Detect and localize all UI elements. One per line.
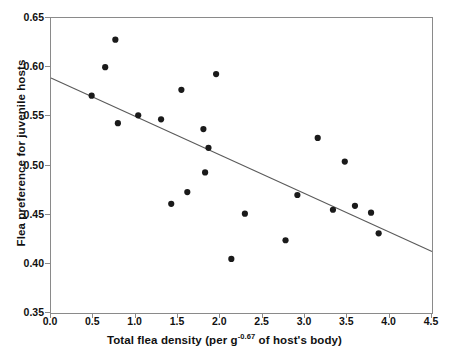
data-point (135, 112, 141, 118)
data-point (315, 135, 321, 141)
data-point (115, 120, 121, 126)
data-point (242, 211, 248, 217)
x-axis-tick-label: 4.5 (411, 315, 449, 327)
scatter-plot-figure: Flea preference for juvenile hosts Total… (0, 0, 449, 359)
data-point (200, 126, 206, 132)
y-axis-tick-label: 0.45 (8, 208, 44, 220)
y-axis-tick-label: 0.50 (8, 159, 44, 171)
y-axis-tick-label: 0.60 (8, 60, 44, 72)
data-point (89, 93, 95, 99)
data-point (178, 87, 184, 93)
regression-trendline (51, 78, 432, 252)
data-point (205, 145, 211, 151)
x-axis-title-prefix: Total flea density (per g (107, 334, 238, 346)
data-point (202, 169, 208, 175)
x-axis-title-suffix: of host's body) (255, 334, 342, 346)
y-axis-tick-label: 0.65 (8, 11, 44, 23)
data-point (184, 189, 190, 195)
plot-canvas (51, 18, 432, 313)
data-point (368, 210, 374, 216)
data-point (330, 207, 336, 213)
data-point (294, 192, 300, 198)
x-axis-title-exponent: -0.67 (238, 332, 256, 341)
data-point (376, 230, 382, 236)
y-axis-tick-label: 0.40 (8, 257, 44, 269)
y-axis-title: Flea preference for juvenile hosts (15, 13, 27, 293)
data-point (342, 158, 348, 164)
plot-area (50, 17, 433, 314)
data-point (352, 203, 358, 209)
data-point-group (89, 37, 382, 262)
data-point (282, 237, 288, 243)
x-axis-title: Total flea density (per g-0.67 of host's… (0, 334, 449, 346)
data-point (158, 116, 164, 122)
data-point (168, 201, 174, 207)
data-point (112, 37, 118, 43)
y-axis-tick-label: 0.55 (8, 109, 44, 121)
data-point (213, 71, 219, 77)
data-point (228, 256, 234, 262)
data-point (102, 64, 108, 70)
